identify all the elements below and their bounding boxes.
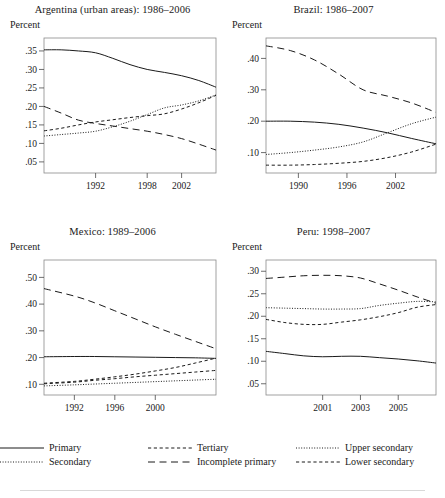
y-tick-label: .30: [247, 85, 259, 95]
y-tick-label: .20: [247, 311, 259, 321]
legend-lower-secondary-key-icon: [296, 456, 340, 468]
plot-frame: [44, 260, 216, 395]
legend-upper-secondary-label: Upper secondary: [345, 442, 413, 453]
legend-primary-label: Primary: [49, 442, 81, 453]
series-line-incomplete-primary: [266, 46, 436, 113]
series-line-incomplete-primary: [44, 106, 216, 150]
legend-upper-secondary-key-icon: [296, 442, 340, 454]
y-tick-label: .25: [247, 289, 259, 299]
x-tick-label: 1990: [289, 181, 308, 191]
plot-frame: [266, 260, 436, 395]
x-tick-label: 2001: [313, 403, 332, 413]
legend: PrimaryTertiaryUpper secondarySecondaryI…: [0, 442, 445, 468]
series-line-upper-secondary: [266, 301, 436, 309]
x-tick-label: 2003: [351, 403, 370, 413]
panel-argentina: Argentina (urban areas): 1986–2006 Perce…: [0, 0, 225, 210]
plot-mexico: .10.20.30.40.50199219962000: [0, 252, 225, 432]
y-axis-unit-brazil: Percent: [232, 19, 262, 30]
x-tick-label: 1992: [65, 403, 84, 413]
panel-brazil: Brazil: 1986–2007 Percent .10.20.30.4019…: [222, 0, 445, 210]
y-axis-unit-peru: Percent: [232, 241, 262, 252]
y-tick-label: .10: [247, 356, 259, 366]
y-tick-label: .15: [25, 120, 37, 130]
legend-incomplete-primary-key-icon: [148, 456, 192, 468]
y-tick-label: .20: [25, 353, 37, 363]
y-tick-label: .30: [25, 326, 37, 336]
plot-frame: [44, 38, 216, 173]
series-line-incomplete-primary: [266, 275, 436, 303]
legend-lower-secondary-label: Lower secondary: [345, 456, 414, 467]
legend-secondary-label: Secondary: [49, 456, 91, 467]
series-line-tertiary: [266, 144, 436, 165]
plot-peru: .05.10.15.20.25.30200120032005: [222, 252, 445, 432]
y-tick-label: .40: [25, 299, 37, 309]
series-line-tertiary: [44, 95, 216, 131]
legend-tertiary: Tertiary: [148, 442, 296, 454]
x-tick-label: 1992: [86, 181, 105, 191]
panel-title-peru: Peru: 1998–2007: [222, 226, 445, 237]
panel-title-brazil: Brazil: 1986–2007: [222, 4, 445, 15]
y-tick-label: .35: [25, 46, 37, 56]
y-tick-label: .10: [247, 148, 259, 158]
x-tick-label: 2002: [172, 181, 191, 191]
legend-lower-secondary: Lower secondary: [296, 456, 445, 468]
x-tick-label: 1998: [138, 181, 157, 191]
plot-argentina: .05.10.15.20.25.30.35199219982002: [0, 30, 225, 210]
series-line-primary: [44, 356, 216, 358]
figure-root: Argentina (urban areas): 1986–2006 Perce…: [0, 0, 445, 498]
series-line-tertiary: [44, 358, 216, 383]
y-tick-label: .20: [25, 102, 37, 112]
x-tick-label: 1996: [337, 181, 356, 191]
legend-upper-secondary: Upper secondary: [296, 442, 445, 454]
series-line-primary: [44, 50, 216, 87]
x-tick-label: 2005: [389, 403, 408, 413]
series-line-lower-secondary: [266, 305, 436, 325]
x-tick-label: 1996: [105, 403, 124, 413]
y-tick-label: .50: [25, 273, 37, 283]
y-tick-label: .15: [247, 334, 259, 344]
y-tick-label: .10: [25, 380, 37, 390]
y-tick-label: .40: [247, 54, 259, 64]
y-tick-label: .20: [247, 116, 259, 126]
panel-title-argentina: Argentina (urban areas): 1986–2006: [0, 4, 225, 15]
legend-secondary-key-icon: [0, 456, 44, 468]
legend-primary: Primary: [0, 442, 148, 454]
y-tick-label: .30: [247, 266, 259, 276]
y-tick-label: .25: [25, 83, 37, 93]
panel-title-mexico: Mexico: 1989–2006: [0, 226, 225, 237]
x-tick-label: 2002: [386, 181, 405, 191]
plot-brazil: .10.20.30.40199019962002: [222, 30, 445, 210]
series-line-incomplete-primary: [44, 289, 216, 349]
legend-incomplete-primary: Incomplete primary: [148, 456, 296, 468]
x-tick-label: 2000: [146, 403, 165, 413]
legend-secondary: Secondary: [0, 456, 148, 468]
panel-mexico: Mexico: 1989–2006 Percent .10.20.30.40.5…: [0, 222, 225, 432]
legend-primary-key-icon: [0, 442, 44, 454]
y-tick-label: .10: [25, 139, 37, 149]
legend-incomplete-primary-label: Incomplete primary: [197, 456, 276, 467]
footer-divider: [20, 490, 425, 491]
legend-tertiary-key-icon: [148, 442, 192, 454]
series-line-secondary: [44, 95, 216, 136]
y-tick-label: .30: [25, 65, 37, 75]
series-line-secondary: [266, 117, 436, 154]
y-axis-unit-mexico: Percent: [10, 241, 40, 252]
series-line-primary: [266, 351, 436, 363]
legend-tertiary-label: Tertiary: [197, 442, 229, 453]
y-tick-label: .05: [247, 379, 259, 389]
y-tick-label: .05: [25, 157, 37, 167]
panel-peru: Peru: 1998–2007 Percent .05.10.15.20.25.…: [222, 222, 445, 432]
y-axis-unit-argentina: Percent: [10, 19, 40, 30]
